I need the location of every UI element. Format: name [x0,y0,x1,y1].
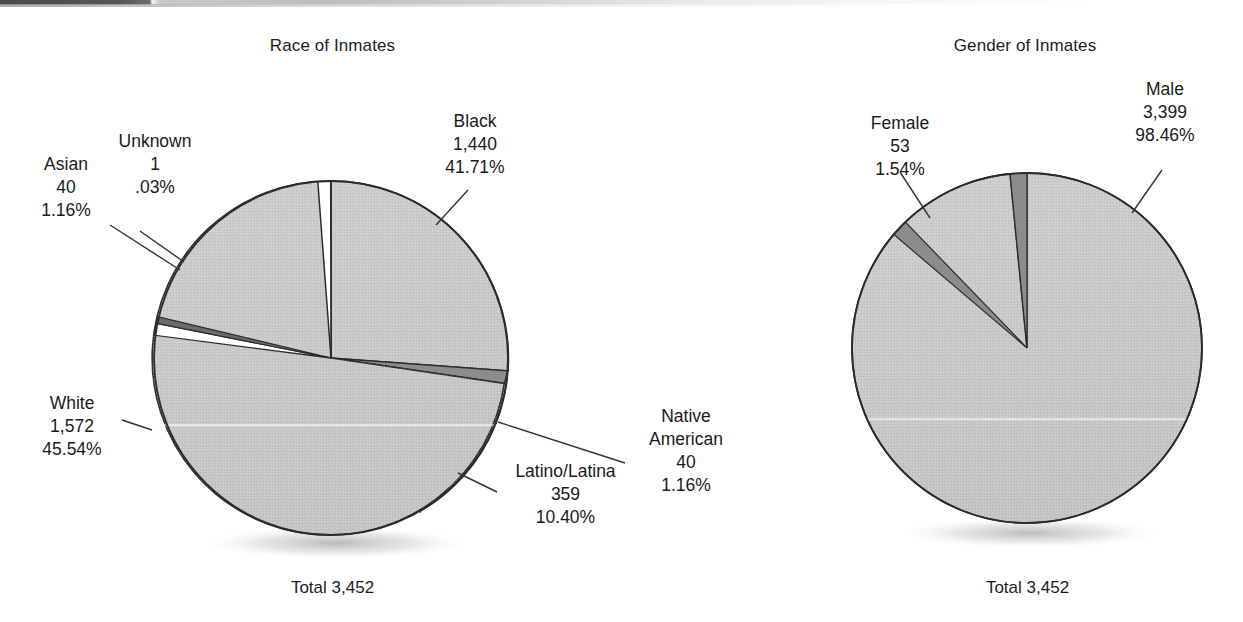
callout-white-count: 1,572 [22,415,122,438]
gender-chart-panel: Gender of Inmates [700,0,1243,622]
callout-male-count: 3,399 [1100,101,1230,124]
callout-male-percent: 98.46% [1100,124,1230,147]
callout-white-percent: 45.54% [22,438,122,461]
race-chart-total: Total 3,452 [205,578,460,598]
callout-asian-percent: 1.16% [18,199,114,222]
gender-chart-total: Total 3,452 [900,578,1155,598]
leader-line-asian [110,225,180,270]
callout-female: Female 53 1.54% [840,112,960,181]
callout-latino-count: 359 [498,483,633,506]
callout-female-percent: 1.54% [840,158,960,181]
callout-asian-count: 40 [18,176,114,199]
callout-latino-percent: 10.40% [498,506,633,529]
callout-male: Male 3,399 98.46% [1100,78,1230,147]
callout-asian-name: Asian [18,153,114,176]
callout-white-name: White [22,392,122,415]
callout-black-count: 1,440 [410,133,540,156]
callout-latino: Latino/Latina 359 10.40% [498,460,633,529]
callout-female-name: Female [840,112,960,135]
callout-female-count: 53 [840,135,960,158]
leader-line-male [1132,170,1162,213]
race-pie-scanline [154,424,508,426]
race-chart-panel: Race of Inmates [0,0,700,622]
callout-black-percent: 41.71% [410,156,540,179]
leader-line-latino [458,473,497,492]
callout-asian: Asian 40 1.16% [18,153,114,222]
callout-white: White 1,572 45.54% [22,392,122,461]
leader-line-white [122,420,152,430]
callout-latino-name: Latino/Latina [498,460,633,483]
callout-black: Black 1,440 41.71% [410,110,540,179]
leader-line-black [436,190,468,225]
callout-unknown-name: Unknown [90,130,220,153]
gender-pie-scanline [852,418,1202,420]
leader-line-unknown [140,231,184,262]
callout-black-name: Black [410,110,540,133]
leader-line-native-american [498,422,625,463]
callout-male-name: Male [1100,78,1230,101]
